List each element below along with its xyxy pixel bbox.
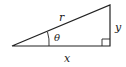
angle-arc bbox=[48, 32, 50, 46]
angle-theta-label: θ bbox=[54, 32, 60, 43]
right-angle-marker bbox=[102, 39, 110, 46]
opposite-side-label: y bbox=[114, 21, 122, 34]
adjacent-side-label: x bbox=[64, 52, 71, 65]
hypotenuse-label: r bbox=[59, 11, 65, 24]
right-triangle-diagram: r y x θ bbox=[0, 0, 126, 67]
